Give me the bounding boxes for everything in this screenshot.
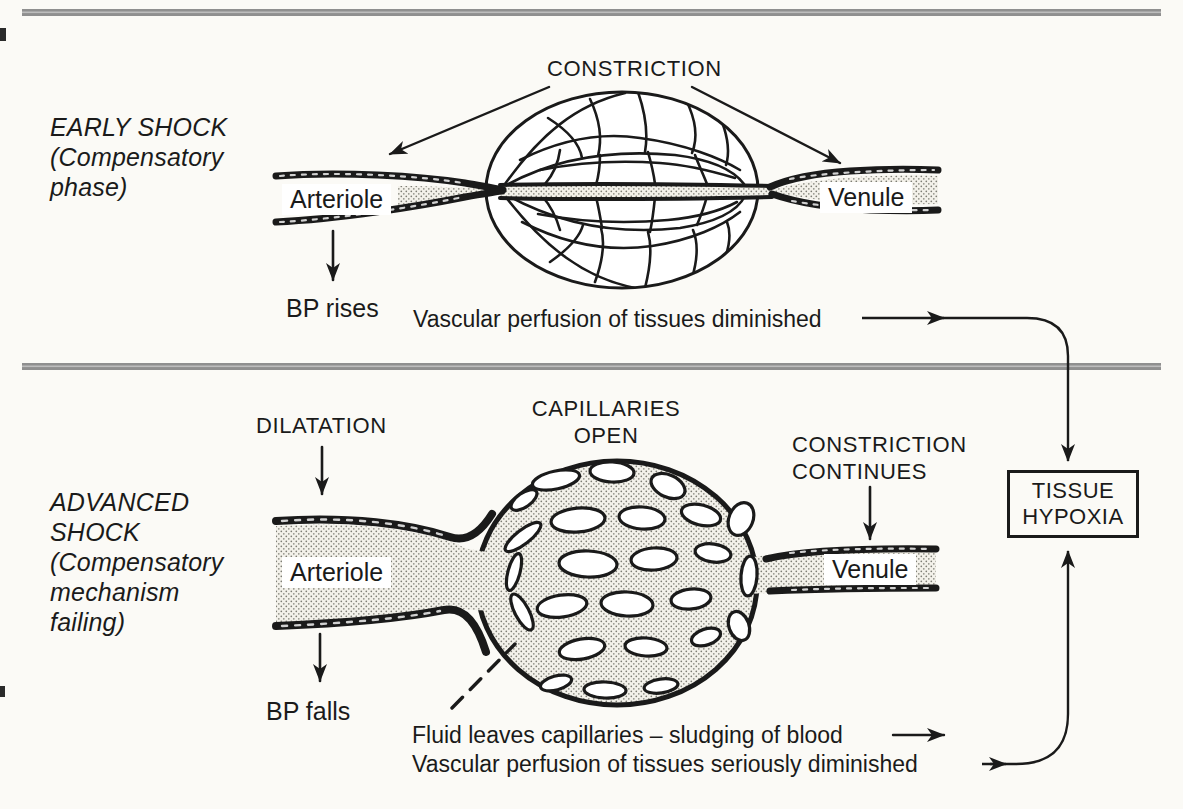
constriction-continues-label: CONSTRICTION CONTINUES [792, 431, 967, 485]
fluid-leaves-text: Fluid leaves capillaries – sludging of b… [412, 722, 843, 749]
capillaries-open-label: CAPILLARIES OPEN [520, 395, 692, 449]
shock-diagram-page: EARLY SHOCK (Compensatory phase) CONSTRI… [0, 0, 1183, 809]
flow-connectors [862, 318, 1068, 764]
advanced-shock-diagram [276, 447, 944, 735]
early-venule-label: Venule [820, 182, 912, 213]
early-arteriole-label: Arteriole [282, 184, 391, 215]
early-capillary-bed [486, 92, 772, 288]
advanced-arteriole-label: Arteriole [282, 557, 391, 588]
early-perfusion-text: Vascular perfusion of tissues diminished [413, 306, 822, 333]
advanced-perfusion-text: Vascular perfusion of tissues seriously … [412, 751, 918, 778]
constriction-label: CONSTRICTION [547, 56, 722, 82]
bp-rises-label: BP rises [286, 294, 379, 323]
early-shock-heading: EARLY SHOCK (Compensatory phase) [50, 112, 227, 202]
advanced-shock-heading: ADVANCED SHOCK (Compensatory mechanism f… [50, 487, 224, 637]
scan-edge-mark [0, 686, 5, 697]
advanced-venule-label: Venule [824, 554, 916, 585]
serious-perfusion-to-hypoxia-connector [982, 551, 1068, 764]
tissue-hypoxia-box: TISSUE HYPOXIA [1007, 470, 1139, 538]
bp-falls-label: BP falls [266, 697, 350, 726]
scan-edge-mark [0, 28, 6, 41]
dilatation-label: DILATATION [256, 413, 387, 439]
